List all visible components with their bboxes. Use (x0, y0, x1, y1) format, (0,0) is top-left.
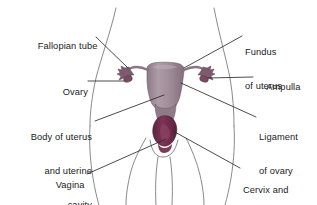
label-cervix-and-cervical-cavity: Cervix and cervical cavity (243, 163, 302, 205)
label-ligament-line1: Ligament (259, 132, 298, 143)
right-torso-outline (214, 8, 234, 126)
anatomy-diagram: Fallopian tube Ovary Body of uterus and … (0, 0, 317, 205)
vaginal-canal-right-line (170, 157, 172, 205)
label-fallopian-tube-line1: Fallopian tube (38, 41, 98, 51)
label-ampulla-line1: Ampulla (266, 82, 300, 92)
label-fallopian-tube: Fallopian tube (27, 30, 98, 64)
label-cervix-line1: Cervix and (243, 185, 302, 196)
leader-vagina (87, 139, 166, 174)
right-hip-outline (225, 126, 234, 205)
uterus-body (147, 62, 184, 111)
label-ampulla: Ampulla (256, 71, 301, 105)
label-vagina-line1: Vagina (56, 180, 85, 190)
leader-fundus (184, 36, 242, 68)
label-ovary-line1: Ovary (63, 87, 88, 97)
leader-fallopian-tube (96, 37, 128, 68)
label-vagina: Vagina (45, 169, 85, 203)
label-fundus-line1: Fundus (245, 47, 282, 58)
left-torso-outline (90, 8, 116, 126)
leader-cervix (173, 131, 240, 168)
right-inner-thigh-outline (186, 138, 204, 205)
label-ovary: Ovary (52, 76, 88, 110)
label-body-of-uterus-line1: Body of uterus (6, 132, 92, 143)
vaginal-canal-left-line (156, 157, 158, 205)
leader-body-of-uterus (95, 95, 164, 121)
left-inner-thigh-outline (126, 138, 146, 205)
